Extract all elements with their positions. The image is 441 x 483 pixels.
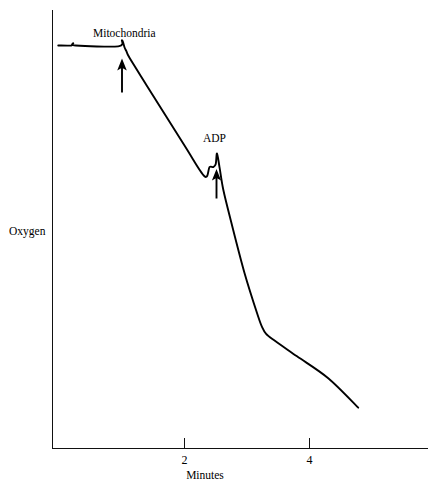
- adp-label: ADP: [203, 132, 226, 144]
- chart-canvas: Mitochondria ADP 2 4 Minutes Oxygen: [0, 0, 441, 483]
- plot-axes: [53, 10, 428, 449]
- annotation-mitochondria: Mitochondria: [93, 27, 156, 93]
- axis-frame: [53, 10, 428, 449]
- oxygen-trace: [58, 40, 358, 407]
- x-tick-label-4: 4: [307, 453, 313, 467]
- x-tick-labels: 2 4: [182, 453, 313, 467]
- oxygen-trace-group: [58, 40, 358, 407]
- x-tick-label-2: 2: [182, 453, 188, 467]
- oxygen-electrode-figure: Mitochondria ADP 2 4 Minutes Oxygen: [0, 0, 441, 483]
- mitochondria-label: Mitochondria: [93, 27, 156, 39]
- x-axis-title: Minutes: [186, 469, 224, 481]
- y-axis-title: Oxygen: [9, 225, 46, 238]
